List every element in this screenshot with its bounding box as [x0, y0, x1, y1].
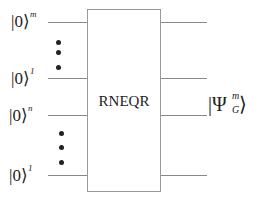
output-line-3 — [161, 115, 207, 116]
ellipsis-dot — [56, 40, 61, 45]
ellipsis-dot — [56, 65, 61, 70]
input-line-2 — [48, 78, 87, 79]
input-ket-3: |0⟩n — [9, 107, 32, 124]
output-line-1 — [161, 22, 207, 23]
input-line-3 — [48, 115, 87, 116]
output-state-label: |ΨmG⟩ — [208, 92, 247, 116]
input-ket-4: |0⟩1 — [9, 167, 32, 184]
output-line-2 — [161, 78, 207, 79]
ellipsis-dot — [59, 131, 64, 136]
input-ket-1: |0⟩m — [11, 13, 36, 30]
ellipsis-dot — [59, 160, 64, 165]
output-line-4 — [161, 175, 207, 176]
ellipsis-dot — [59, 145, 64, 150]
input-line-1 — [48, 22, 87, 23]
input-ket-2: |0⟩1 — [11, 70, 34, 87]
ellipsis-dot — [56, 50, 61, 55]
gate-label: RNEQR — [87, 93, 161, 110]
input-line-4 — [48, 175, 87, 176]
